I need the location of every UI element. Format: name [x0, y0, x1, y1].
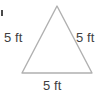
- edge-speck-icon: [1, 10, 3, 16]
- base-side-length-label: 5 ft: [43, 79, 61, 92]
- geometry-figure: 5 ft 5 ft 5 ft: [0, 0, 105, 99]
- right-side-length-label: 5 ft: [76, 31, 94, 44]
- left-side-length-label: 5 ft: [4, 31, 22, 44]
